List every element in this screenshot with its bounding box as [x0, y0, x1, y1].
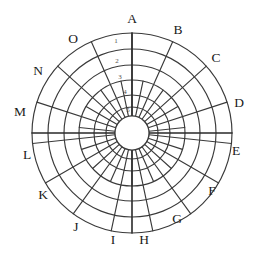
ring-label-2: 2 — [115, 57, 119, 65]
sector-label-A: A — [127, 11, 137, 26]
center-hub — [115, 116, 149, 150]
sector-label-J: J — [73, 219, 78, 234]
sector-label-D: D — [234, 95, 244, 110]
ring-label-3: 3 — [118, 73, 122, 81]
radial-subspoke-3 — [149, 127, 185, 131]
sector-label-H: H — [139, 232, 149, 247]
sector-label-G: G — [172, 211, 182, 226]
radial-spoke-J — [73, 147, 122, 214]
sector-label-M: M — [14, 104, 26, 119]
ring-label-5: 5 — [126, 106, 130, 114]
radial-spoke-I — [111, 150, 128, 231]
sector-label-K: K — [38, 187, 48, 202]
sector-label-C: C — [211, 50, 220, 65]
sector-label-F: F — [208, 183, 216, 198]
ring-number-labels-group: 12345 — [114, 37, 130, 114]
ring-label-4: 4 — [123, 88, 127, 96]
sector-label-L: L — [23, 147, 31, 162]
ring-label-1: 1 — [114, 37, 118, 45]
sector-label-O: O — [68, 31, 78, 46]
sector-label-I: I — [111, 232, 116, 247]
radial-subspoke-11 — [79, 127, 115, 131]
sector-label-N: N — [33, 63, 43, 78]
polar-grid-svg: 12345 ABCDEFGHIJKLMNO — [0, 0, 265, 255]
sector-label-E: E — [232, 143, 240, 158]
sector-label-B: B — [173, 22, 182, 37]
diagram-canvas: 12345 ABCDEFGHIJKLMNO — [0, 0, 265, 255]
radial-spoke-G — [142, 147, 191, 214]
radial-spoke-H — [136, 150, 153, 231]
center-hub-group — [115, 116, 149, 150]
